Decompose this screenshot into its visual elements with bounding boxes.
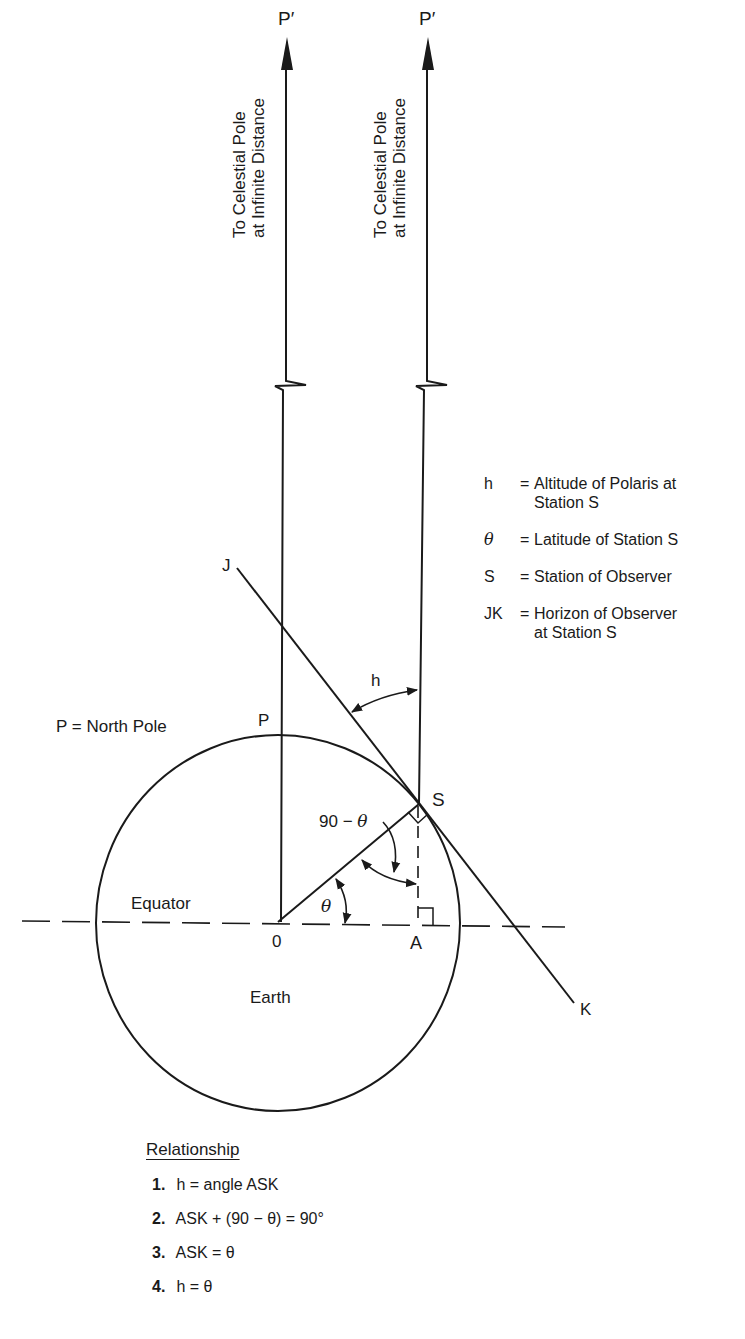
angle-theta-arc [336,879,346,923]
ninety-minus-text: 90 − [319,812,357,831]
relationship-heading: Relationship [146,1140,324,1160]
legend-text: Horizon of Observer at Station S [534,604,684,642]
right-angle-a [418,908,433,925]
legend-equals: = [520,530,534,549]
legend-row-h: h = Altitude of Polaris at Station S [484,474,714,512]
ninety-minus-theta-pointer [383,822,396,872]
angle-theta-label: θ [321,898,331,915]
note-line-2: at Infinite Distance [390,98,409,238]
arrow-up-icon [422,37,434,70]
legend-text: Altitude of Polaris at Station S [534,474,679,512]
point-p-label: P [258,712,269,729]
celestial-pole-note-left: To Celestial Pole at Infinite Distance [230,98,268,238]
item-text: ASK + (90 − θ) = 90° [176,1210,324,1227]
celestial-pole-note-right: To Celestial Pole at Infinite Distance [371,98,409,238]
legend-symbol: h [484,474,520,512]
right-pole-line [416,37,447,803]
item-text: h = θ [176,1278,212,1295]
theta-symbol: θ [357,811,367,831]
relationship-item: 2. ASK + (90 − θ) = 90° [152,1210,324,1230]
point-o-label: 0 [272,933,281,950]
legend-symbol: θ [484,530,520,549]
point-s-label: S [432,790,445,809]
legend: h = Altitude of Polaris at Station S θ =… [484,474,714,660]
legend-text: Latitude of Station S [534,530,714,549]
left-pole-line [275,37,306,922]
relationship-item: 3. ASK = θ [152,1244,324,1264]
item-number: 1. [152,1176,172,1194]
celestial-pole-label-left: P′ [278,9,294,28]
item-text: h = angle ASK [176,1176,278,1193]
item-number: 4. [152,1278,172,1296]
relationship-item: 4. h = θ [152,1278,324,1298]
legend-equals: = [520,604,534,642]
note-line-1: To Celestial Pole [371,98,390,238]
legend-equals: = [520,474,534,512]
angle-ninety-minus-theta-label: 90 − θ [319,813,368,830]
angle-h-arc [352,690,417,712]
legend-row-theta: θ = Latitude of Station S [484,530,714,549]
item-number: 3. [152,1244,172,1262]
legend-symbol: S [484,567,520,586]
relationship-item: 1. h = angle ASK [152,1176,324,1196]
note-line-1: To Celestial Pole [230,98,249,238]
note-line-2: at Infinite Distance [249,98,268,238]
angle-h-label: h [371,672,380,689]
legend-text: Station of Observer [534,567,714,586]
north-pole-label: P = North Pole [56,718,167,735]
legend-row-s: S = Station of Observer [484,567,714,586]
item-number: 2. [152,1210,172,1228]
relationship-block: Relationship 1. h = angle ASK 2. ASK + (… [152,1140,324,1312]
point-k-label: K [580,1001,591,1018]
earth-label: Earth [250,989,291,1006]
equator-label: Equator [131,895,191,912]
legend-symbol: JK [484,604,520,642]
point-a-label: A [410,934,422,952]
arrow-up-icon [281,37,293,70]
celestial-pole-label-right: P′ [419,9,435,28]
point-j-label: J [222,557,231,574]
legend-equals: = [520,567,534,586]
angle-osa-arc [362,860,416,884]
equator-line [22,921,565,927]
item-text: ASK = θ [176,1244,235,1261]
legend-row-jk: JK = Horizon of Observer at Station S [484,604,714,642]
